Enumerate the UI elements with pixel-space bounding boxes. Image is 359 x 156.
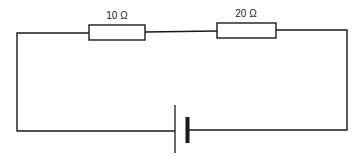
battery-negative-plate (186, 117, 190, 143)
circuit-diagram: 10 Ω 20 Ω (0, 0, 359, 156)
wire-right (188, 30, 347, 130)
wires (17, 30, 347, 131)
wire-left (17, 33, 175, 131)
resistor-label: 20 Ω (235, 8, 257, 19)
resistor-label: 10 Ω (106, 10, 128, 21)
resistor-10-ohm: 10 Ω (89, 10, 145, 40)
wire-top-middle (145, 31, 217, 32)
battery-cell (175, 105, 190, 153)
resistor-body (217, 23, 276, 38)
resistor-body (89, 25, 145, 40)
resistor-20-ohm: 20 Ω (217, 8, 276, 38)
